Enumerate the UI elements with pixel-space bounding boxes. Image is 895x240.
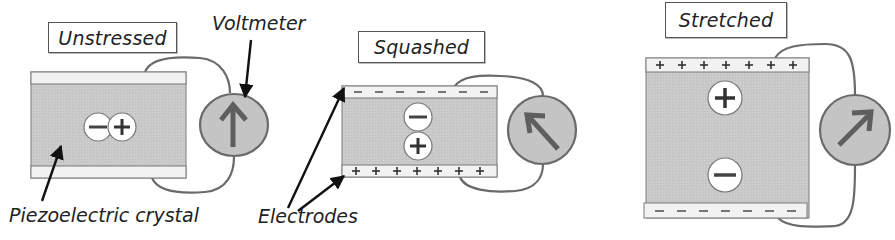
title-stretched-box: Stretched: [665, 2, 787, 38]
panel-unstressed: [31, 57, 268, 192]
electrodes-label: Electrodes: [258, 207, 358, 226]
crystal-label: Piezoelectric crystal: [9, 206, 199, 225]
voltmeter-icon: [820, 95, 890, 165]
plus-charge-icon: [708, 81, 742, 115]
title-stretched: Stretched: [679, 9, 774, 31]
panel-stretched: [644, 44, 890, 227]
piezoelectric-diagram: Unstressed Squashed Stretched Voltmeter …: [0, 0, 895, 240]
title-squashed-box: Squashed: [358, 31, 485, 63]
voltmeter-pointer-arrow: [245, 40, 251, 97]
panel-squashed: [342, 76, 576, 192]
voltmeter-label: Voltmeter: [212, 14, 305, 33]
plus-charge-icon: [404, 132, 432, 160]
title-unstressed-box: Unstressed: [48, 22, 177, 53]
electrode-top-pointer-arrow: [288, 88, 344, 208]
voltmeter-icon: [508, 96, 576, 164]
electrode-top: [31, 72, 186, 84]
title-squashed: Squashed: [374, 36, 469, 58]
voltmeter-icon: [200, 94, 268, 156]
minus-charge-icon: [708, 158, 742, 192]
plus-charge-icon: [108, 113, 136, 141]
title-unstressed: Unstressed: [58, 27, 166, 49]
minus-charge-icon: [404, 103, 432, 131]
